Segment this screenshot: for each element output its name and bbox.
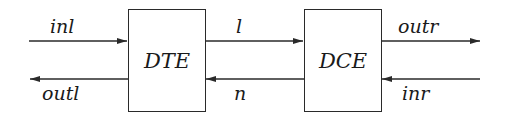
edge-label-inr: inr: [402, 84, 429, 103]
edge-label-outr: outr: [398, 17, 438, 36]
edge-label-outl: outl: [42, 84, 79, 103]
dte-box: DTE: [128, 9, 206, 112]
dce-label: DCE: [319, 49, 367, 73]
dce-box: DCE: [304, 9, 382, 112]
edge-label-n: n: [234, 84, 246, 103]
edge-label-inl: inl: [50, 17, 74, 36]
dte-label: DTE: [144, 49, 190, 73]
edge-label-l: l: [236, 17, 242, 36]
channel-block-diagram: DTE DCE inl outl l n outr inr: [0, 0, 507, 117]
